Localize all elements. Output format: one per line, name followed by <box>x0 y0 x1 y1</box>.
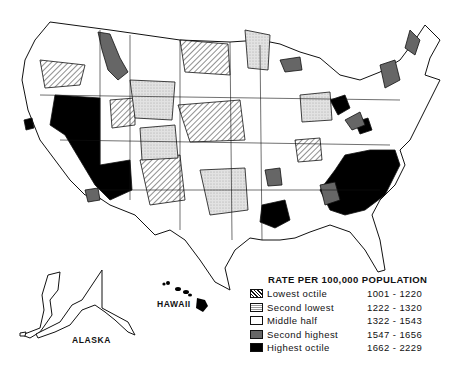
legend-range: 1222 - 1320 <box>367 302 447 313</box>
white-swatch-icon <box>250 316 263 325</box>
diagonal-hatch-swatch-icon <box>250 289 263 298</box>
legend-item-highest: Highest octile 1662 - 2229 <box>250 341 465 355</box>
legend-title: RATE PER 100,000 POPULATION <box>268 274 465 285</box>
legend-label: Middle half <box>267 315 367 326</box>
stipple-swatch-icon <box>250 303 263 312</box>
legend-item-second-lowest: Second lowest 1222 - 1320 <box>250 301 465 315</box>
legend-item-middle-half: Middle half 1322 - 1543 <box>250 314 465 328</box>
legend-label: Highest octile <box>267 342 367 353</box>
black-swatch-icon <box>250 343 263 352</box>
legend-label: Second highest <box>267 329 367 340</box>
legend-label: Second lowest <box>267 302 367 313</box>
legend-range: 1001 - 1220 <box>367 288 447 299</box>
legend-label: Lowest octile <box>267 288 367 299</box>
alaska <box>20 270 135 338</box>
dark-gray-swatch-icon <box>250 330 263 339</box>
legend-range: 1322 - 1543 <box>367 315 447 326</box>
alaska-label: ALASKA <box>72 335 111 345</box>
legend-range: 1547 - 1656 <box>367 329 447 340</box>
legend-item-lowest: Lowest octile 1001 - 1220 <box>250 287 465 301</box>
hawaii-label: HAWAII <box>157 299 191 309</box>
legend-item-second-highest: Second highest 1547 - 1656 <box>250 328 465 342</box>
legend: RATE PER 100,000 POPULATION Lowest octil… <box>250 274 465 355</box>
legend-range: 1662 - 2229 <box>367 342 447 353</box>
